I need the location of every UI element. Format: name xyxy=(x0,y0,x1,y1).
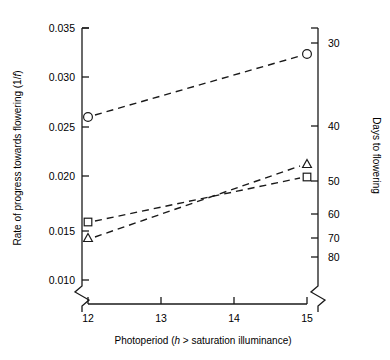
y-axis-right-break-icon xyxy=(311,280,325,312)
series-line-triangle xyxy=(95,166,300,237)
data-point-triangle-15 xyxy=(303,160,312,168)
series-line-circle xyxy=(95,56,300,115)
data-point-triangle-12 xyxy=(84,234,93,242)
y-axis-left-break-icon xyxy=(75,280,89,312)
data-point-square-12 xyxy=(84,218,92,226)
series-line-square xyxy=(95,178,300,221)
data-point-circle-12 xyxy=(84,113,93,122)
figure-chart: Rate of progress towards flowering (1/f)… xyxy=(0,0,390,360)
data-point-square-15 xyxy=(303,173,311,181)
plot-area xyxy=(0,0,390,360)
data-point-circle-15 xyxy=(303,50,312,59)
